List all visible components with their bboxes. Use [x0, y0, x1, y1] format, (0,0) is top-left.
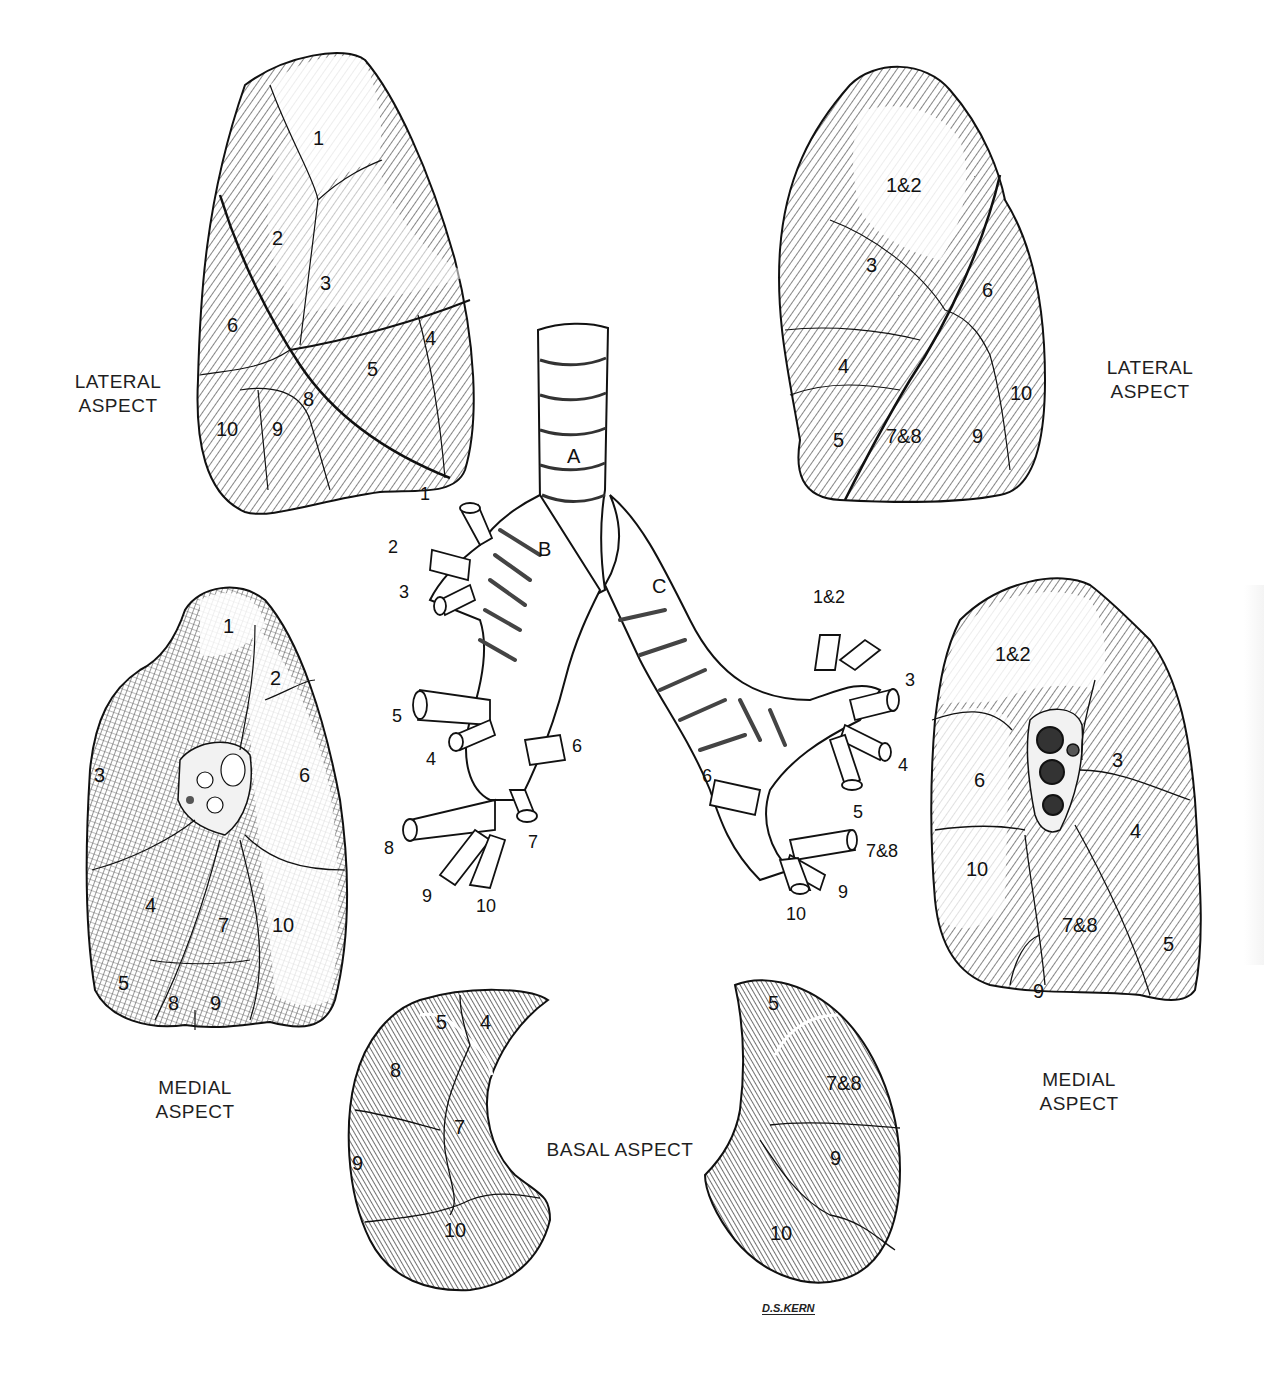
caption-left-medial: MEDIAL ASPECT [1014, 1068, 1144, 1116]
seg-label: 9 [1033, 980, 1044, 1002]
seg-label: 3 [866, 254, 877, 276]
branch-label: 6 [572, 736, 582, 756]
seg-label: 5 [768, 992, 779, 1014]
caption-line: ASPECT [1014, 1092, 1144, 1116]
branch-label: 9 [422, 886, 432, 906]
seg-label: 10 [966, 858, 988, 880]
branch-label: 10 [476, 896, 496, 916]
seg-label: 2 [270, 667, 281, 689]
seg-label: 4 [480, 1011, 491, 1033]
seg-label: 6 [299, 764, 310, 786]
caption-left-lateral: LATERAL ASPECT [1080, 356, 1220, 404]
branch-label: 1&2 [813, 587, 845, 607]
page-edge [1244, 585, 1264, 965]
branch-label: 7 [528, 832, 538, 852]
artist-signature: D.S.KERN [762, 1302, 815, 1315]
left-lung-lateral: 1&2 3 4 5 6 7&8 9 10 [779, 67, 1045, 502]
seg-label: 6 [227, 314, 238, 336]
seg-label: 3 [320, 272, 331, 294]
seg-label: 10 [444, 1219, 466, 1241]
seg-label: 8 [390, 1059, 401, 1081]
caption-line: BASAL ASPECT [530, 1138, 710, 1162]
caption-line: ASPECT [1080, 380, 1220, 404]
branch-label: 1 [420, 484, 430, 504]
seg-label: 5 [833, 429, 844, 451]
caption-basal: BASAL ASPECT [530, 1138, 710, 1162]
branch-label: 4 [426, 749, 436, 769]
branch-label: 4 [898, 755, 908, 775]
seg-label: 4 [838, 355, 849, 377]
seg-label: 4 [425, 327, 436, 349]
right-lung-medial: 1 2 3 6 4 7 10 5 8 9 [87, 588, 347, 1030]
seg-label: 1 [223, 615, 234, 637]
seg-label: 6 [982, 279, 993, 301]
branch-label: 8 [384, 838, 394, 858]
left-lung-basal: 5 7&8 9 10 [705, 980, 900, 1282]
seg-label: 10 [216, 418, 238, 440]
branch-label: 2 [388, 537, 398, 557]
caption-line: MEDIAL [130, 1076, 260, 1100]
seg-label: 9 [972, 425, 983, 447]
bronchopulmonary-diagram: 1 2 3 4 5 6 8 9 10 1&2 3 4 5 6 7&8 9 10 [0, 0, 1264, 1375]
seg-label: 5 [367, 358, 378, 380]
seg-label: 7 [454, 1116, 465, 1138]
branch-label: 3 [399, 582, 409, 602]
seg-label: 10 [770, 1222, 792, 1244]
seg-label: 1 [313, 127, 324, 149]
branch-label: 7&8 [866, 841, 898, 861]
seg-label: 10 [272, 914, 294, 936]
caption-line: ASPECT [48, 394, 188, 418]
seg-label: 9 [210, 992, 221, 1014]
caption-right-lateral: LATERAL ASPECT [48, 370, 188, 418]
left-main-bronchus [605, 495, 880, 880]
seg-label: 9 [830, 1147, 841, 1169]
caption-line: LATERAL [1080, 356, 1220, 380]
branch-label: 3 [905, 670, 915, 690]
seg-label: 1&2 [995, 643, 1031, 665]
right-lung-lateral: 1 2 3 4 5 6 8 9 10 [198, 53, 474, 514]
caption-line: LATERAL [48, 370, 188, 394]
seg-label: 7&8 [886, 425, 922, 447]
seg-label: 5 [436, 1011, 447, 1033]
seg-label: 6 [974, 769, 985, 791]
right-basal-outline [349, 990, 550, 1290]
seg-label: 7 [218, 914, 229, 936]
caption-line: MEDIAL [1014, 1068, 1144, 1092]
seg-label: 4 [145, 894, 156, 916]
seg-label: 8 [303, 388, 314, 410]
seg-label: 8 [168, 992, 179, 1014]
seg-label: 5 [118, 972, 129, 994]
left-bronchus-label: C [652, 575, 666, 597]
seg-label: 3 [1112, 749, 1123, 771]
seg-label: 4 [1130, 820, 1141, 842]
seg-label: 5 [1163, 933, 1174, 955]
seg-label: 2 [272, 227, 283, 249]
right-bronchus-label: B [538, 538, 551, 560]
branch-label: 5 [853, 802, 863, 822]
seg-label: 9 [272, 418, 283, 440]
branch-label: 9 [838, 882, 848, 902]
left-lung-medial: 1&2 3 6 4 10 7&8 5 9 [931, 578, 1201, 1002]
caption-line: ASPECT [130, 1100, 260, 1124]
branch-label: 6 [702, 766, 712, 786]
branch-label: 10 [786, 904, 806, 924]
branch-label: 5 [392, 706, 402, 726]
seg-label: 9 [352, 1152, 363, 1174]
trachea-label: A [567, 445, 581, 467]
caption-right-medial: MEDIAL ASPECT [130, 1076, 260, 1124]
seg-label: 3 [94, 764, 105, 786]
seg-label: 10 [1010, 382, 1032, 404]
seg-label: 1&2 [886, 174, 922, 196]
seg-label: 7&8 [826, 1072, 862, 1094]
seg-label: 7&8 [1062, 914, 1098, 936]
anterior-light-region [934, 708, 1010, 928]
right-lung-basal: 5 4 8 7 9 10 [349, 990, 550, 1290]
